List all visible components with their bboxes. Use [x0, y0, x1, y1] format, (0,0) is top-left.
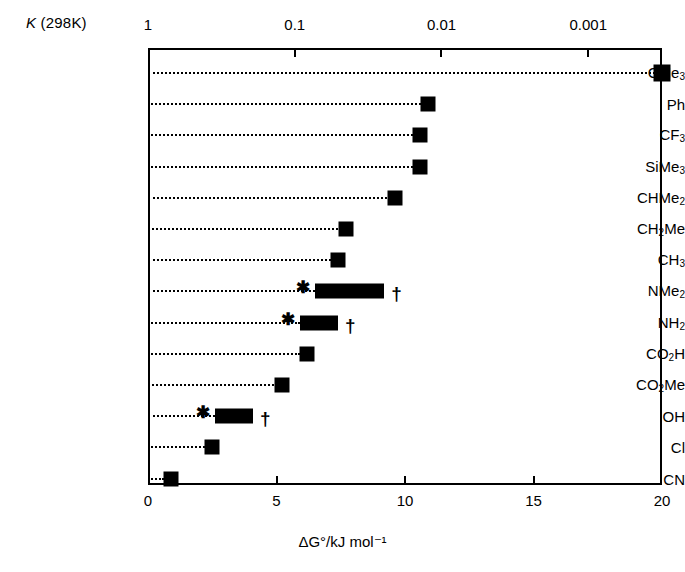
leader-line [148, 197, 387, 199]
dagger-footnote-icon: † [391, 284, 402, 303]
row-label: CN [567, 471, 685, 486]
leader-line [148, 353, 300, 355]
top-axis-caption: K (298K) [26, 14, 87, 31]
top-axis-tick [294, 48, 296, 57]
data-point-marker [205, 440, 220, 455]
leader-line [148, 322, 300, 324]
data-point-marker [164, 471, 179, 486]
dagger-footnote-icon: † [345, 315, 356, 334]
row-label: OH [567, 409, 685, 424]
leader-line [148, 103, 421, 105]
leader-line [148, 290, 315, 292]
x-axis-tick [276, 476, 278, 485]
row-label: Ph [567, 97, 685, 112]
data-point-marker [338, 222, 353, 237]
x-axis-tick-label: 15 [525, 492, 542, 509]
asterisk-footnote-icon: ✱ [281, 310, 295, 327]
leader-line [148, 446, 205, 448]
x-axis-tick-label: 5 [272, 492, 280, 509]
top-axis-tick [587, 48, 589, 57]
row-label: NMe2 [567, 283, 685, 300]
data-point-marker [274, 378, 289, 393]
x-axis-tick-label: 20 [654, 492, 671, 509]
leader-line [148, 478, 164, 480]
leader-line [148, 134, 413, 136]
row-label: CH2Me [567, 221, 685, 238]
row-label: CO2H [567, 345, 685, 362]
top-axis-tick-label: 1 [144, 16, 152, 33]
top-axis-tick-label: 0.01 [427, 16, 456, 33]
top-axis-caption-rest: (298K) [36, 14, 87, 31]
chart-canvas: K (298K) 0510152010.10.010.001 CMe3PhCF3… [0, 0, 685, 572]
row-label: Cl [567, 440, 685, 455]
data-point-marker [421, 97, 436, 112]
x-axis-tick [404, 476, 406, 485]
x-axis-tick-label: 10 [397, 492, 414, 509]
asterisk-footnote-icon: ✱ [296, 279, 310, 296]
top-axis-tick [440, 48, 442, 57]
row-label: CHMe2 [567, 189, 685, 206]
top-axis-caption-symbol: K [26, 14, 36, 31]
row-label: CO2Me [567, 377, 685, 394]
row-label: CF3 [567, 127, 685, 144]
row-label: NH2 [567, 314, 685, 331]
leader-line [148, 72, 655, 74]
dagger-footnote-icon: † [260, 409, 271, 428]
leader-line [148, 228, 338, 230]
range-bar [215, 409, 254, 424]
data-point-marker [331, 253, 346, 268]
top-axis-tick-label: 0.1 [284, 16, 305, 33]
range-bar [315, 284, 384, 299]
x-axis-tick-label: 0 [144, 492, 152, 509]
data-point-marker [300, 346, 315, 361]
data-point-marker [413, 159, 428, 174]
x-axis-tick [533, 476, 535, 485]
row-label: CH3 [567, 252, 685, 269]
data-point-marker [387, 190, 402, 205]
data-point-marker [654, 65, 671, 82]
data-point-marker [413, 128, 428, 143]
leader-line [148, 166, 413, 168]
top-axis-tick-label: 0.001 [569, 16, 607, 33]
x-axis-title: ΔG°/kJ mol⁻¹ [0, 533, 685, 551]
leader-line [148, 384, 274, 386]
range-bar [300, 315, 339, 330]
asterisk-footnote-icon: ✱ [196, 404, 210, 421]
leader-line [148, 259, 331, 261]
row-label: SiMe3 [567, 158, 685, 175]
